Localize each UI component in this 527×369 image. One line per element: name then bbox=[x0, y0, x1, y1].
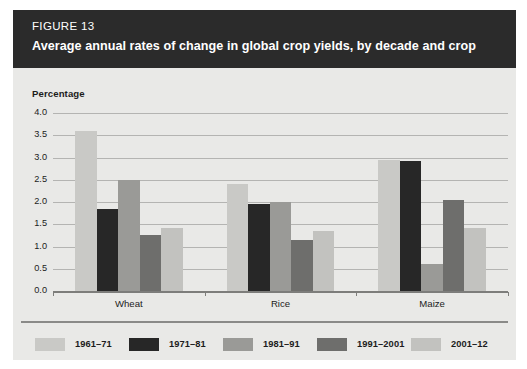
bar bbox=[118, 180, 140, 291]
legend-swatch bbox=[223, 338, 253, 351]
y-axis-tick-label: 1.0 bbox=[21, 241, 47, 251]
y-axis-tick-label: 4.0 bbox=[21, 107, 47, 117]
bar bbox=[227, 184, 249, 291]
bar bbox=[97, 209, 119, 291]
bar bbox=[291, 240, 313, 291]
bar-group bbox=[75, 10, 183, 291]
bar bbox=[75, 131, 97, 291]
y-axis-tick-label: 3.5 bbox=[21, 129, 47, 139]
bar bbox=[248, 204, 270, 291]
bar bbox=[140, 235, 162, 292]
y-axis-tick-label: 3.0 bbox=[21, 152, 47, 162]
x-axis-line bbox=[53, 291, 508, 293]
legend-item[interactable]: 1991–2001 bbox=[317, 337, 404, 351]
bar bbox=[421, 264, 443, 291]
bar bbox=[378, 160, 400, 291]
x-axis-tick bbox=[508, 292, 509, 296]
legend-divider bbox=[21, 321, 508, 323]
x-axis-tick bbox=[205, 292, 206, 296]
y-axis-tick-label: 0.5 bbox=[21, 263, 47, 273]
x-axis-tick bbox=[356, 292, 357, 296]
y-axis-tick-label: 0.0 bbox=[21, 285, 47, 295]
y-axis-tick-label: 2.0 bbox=[21, 196, 47, 206]
legend-swatch bbox=[129, 338, 159, 351]
x-axis-tick bbox=[53, 292, 54, 296]
chart-legend: 1961–711971–811981–911991–20012001–12 bbox=[35, 337, 505, 353]
legend-swatch bbox=[411, 338, 441, 351]
bar bbox=[443, 200, 465, 291]
y-axis-tick-label: 2.5 bbox=[21, 174, 47, 184]
y-axis-tick-label: 1.5 bbox=[21, 218, 47, 228]
x-axis-category-label: Wheat bbox=[53, 298, 205, 309]
bar-group bbox=[227, 10, 335, 291]
bar bbox=[400, 161, 422, 291]
legend-label: 2001–12 bbox=[451, 339, 488, 349]
legend-label: 1991–2001 bbox=[357, 339, 404, 349]
figure-container: FIGURE 13 Average annual rates of change… bbox=[13, 10, 516, 360]
legend-label: 1971–81 bbox=[169, 339, 206, 349]
bar-group bbox=[378, 10, 486, 291]
legend-label: 1961–71 bbox=[75, 339, 112, 349]
bar bbox=[464, 228, 486, 291]
x-axis-category-label: Maize bbox=[356, 298, 508, 309]
legend-item[interactable]: 1981–91 bbox=[223, 337, 300, 351]
legend-item[interactable]: 1971–81 bbox=[129, 337, 206, 351]
legend-item[interactable]: 2001–12 bbox=[411, 337, 488, 351]
bar bbox=[270, 202, 292, 291]
legend-item[interactable]: 1961–71 bbox=[35, 337, 112, 351]
bar bbox=[313, 231, 335, 291]
chart-plot-area: 0.00.51.01.52.02.53.03.54.0 WheatRiceMai… bbox=[13, 10, 516, 360]
legend-label: 1981–91 bbox=[263, 339, 300, 349]
bar bbox=[161, 228, 183, 291]
legend-swatch bbox=[35, 338, 65, 351]
legend-swatch bbox=[317, 338, 347, 351]
x-axis-category-label: Rice bbox=[205, 298, 357, 309]
